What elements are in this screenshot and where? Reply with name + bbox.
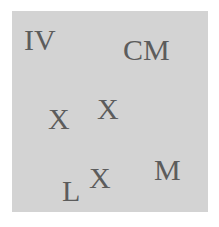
roman-numeral-x-left: X	[48, 104, 70, 134]
roman-numeral-x-bottom: X	[89, 163, 111, 193]
roman-numeral-l: L	[62, 176, 80, 206]
canvas: IV CM X X L X M	[0, 0, 219, 227]
roman-numeral-m: M	[154, 155, 181, 185]
roman-numeral-cm: CM	[123, 35, 170, 65]
roman-numeral-iv: IV	[24, 25, 56, 55]
roman-numeral-x-middle: X	[97, 94, 119, 124]
